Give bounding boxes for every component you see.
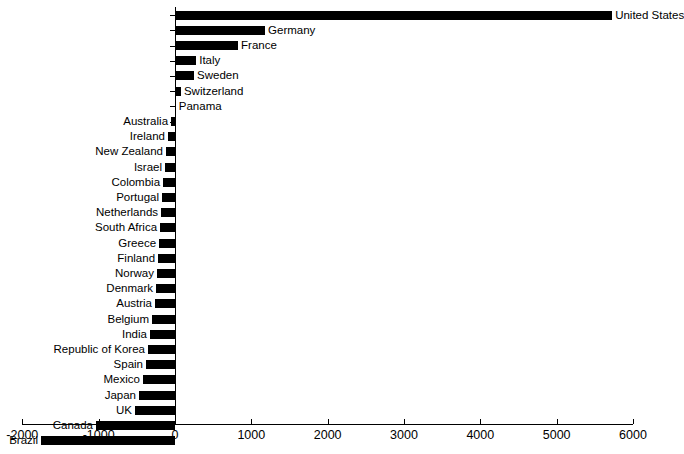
bar-row: Spain bbox=[0, 357, 644, 372]
bar-row: Mexico bbox=[0, 372, 644, 387]
bar-category-label: Netherlands bbox=[96, 205, 158, 220]
x-axis-tick-label: -2000 bbox=[6, 428, 38, 442]
x-axis-tick bbox=[480, 419, 481, 424]
x-axis-tick bbox=[22, 419, 23, 424]
bar-category-label: South Africa bbox=[95, 220, 157, 235]
x-axis-tick bbox=[633, 419, 634, 424]
bar-category-label: Colombia bbox=[111, 175, 160, 190]
bar-category-label: France bbox=[241, 38, 277, 53]
x-axis-tick-label: 4000 bbox=[466, 428, 494, 442]
x-axis-tick-label: 0 bbox=[172, 428, 179, 442]
bar-category-label: Germany bbox=[268, 23, 315, 38]
bar-row: Belgium bbox=[0, 312, 644, 327]
bar-category-label: Australia bbox=[123, 114, 168, 129]
bar-category-label: Norway bbox=[115, 266, 154, 281]
bar-category-label: Belgium bbox=[107, 312, 149, 327]
bar bbox=[135, 406, 175, 415]
bar-category-label: Sweden bbox=[197, 68, 239, 83]
bar-category-label: Switzerland bbox=[184, 84, 243, 99]
x-axis-tick bbox=[557, 419, 558, 424]
bar-row: Netherlands bbox=[0, 205, 644, 220]
bar-row: Ireland bbox=[0, 129, 644, 144]
bar-category-label: Italy bbox=[199, 53, 220, 68]
bar-category-label: United States bbox=[615, 8, 684, 23]
x-axis-tick-label: -1000 bbox=[83, 428, 115, 442]
x-axis-tick bbox=[328, 419, 329, 424]
bar-row: South Africa bbox=[0, 220, 644, 235]
bar-row: Israel bbox=[0, 160, 644, 175]
bar-category-label: Finland bbox=[117, 251, 155, 266]
bar-row: France bbox=[0, 38, 644, 53]
bar-category-label: Mexico bbox=[104, 372, 140, 387]
x-axis-tick bbox=[175, 419, 176, 424]
bar-category-label: Austria bbox=[116, 296, 152, 311]
bar-row: Sweden bbox=[0, 68, 644, 83]
bar-category-label: UK bbox=[116, 403, 132, 418]
bar-category-label: Israel bbox=[134, 160, 162, 175]
bar bbox=[175, 56, 196, 65]
bar-category-label: India bbox=[122, 327, 147, 342]
x-axis-tick bbox=[251, 419, 252, 424]
y-axis-tick bbox=[170, 426, 175, 427]
bar-row: Colombia bbox=[0, 175, 644, 190]
bar-category-label: Greece bbox=[118, 236, 156, 251]
bar-row: Finland bbox=[0, 251, 644, 266]
bar-category-label: Ireland bbox=[130, 129, 165, 144]
bar-category-label: Portugal bbox=[116, 190, 159, 205]
bar-row: New Zealand bbox=[0, 144, 644, 159]
x-axis-tick-label: 3000 bbox=[390, 428, 418, 442]
bar-category-label: Japan bbox=[105, 388, 136, 403]
bar-row: Italy bbox=[0, 53, 644, 68]
bar-row: Greece bbox=[0, 236, 644, 251]
bar-row: Panama bbox=[0, 99, 644, 114]
bar-row: India bbox=[0, 327, 644, 342]
bar-category-label: Republic of Korea bbox=[54, 342, 145, 357]
bar bbox=[175, 71, 194, 80]
bar-row: Austria bbox=[0, 296, 644, 311]
bar-category-label: Spain bbox=[114, 357, 143, 372]
bar-row: Australia bbox=[0, 114, 644, 129]
x-axis-tick-label: 6000 bbox=[619, 428, 647, 442]
bar-category-label: Panama bbox=[179, 99, 222, 114]
bar-row: United States bbox=[0, 8, 644, 23]
bar-row: Portugal bbox=[0, 190, 644, 205]
bar-category-label: New Zealand bbox=[95, 144, 163, 159]
bar-category-label: Denmark bbox=[106, 281, 153, 296]
bar-row: UK bbox=[0, 403, 644, 418]
x-axis-tick-label: 5000 bbox=[543, 428, 571, 442]
x-axis-tick-label: 2000 bbox=[314, 428, 342, 442]
bar-row: Denmark bbox=[0, 281, 644, 296]
bar-row: Republic of Korea bbox=[0, 342, 644, 357]
x-axis-tick bbox=[404, 419, 405, 424]
x-axis-line bbox=[22, 424, 633, 425]
bar bbox=[175, 41, 238, 50]
bar-row: Germany bbox=[0, 23, 644, 38]
bar-row: Norway bbox=[0, 266, 644, 281]
x-axis-tick bbox=[99, 419, 100, 424]
x-axis-tick-label: 1000 bbox=[237, 428, 265, 442]
bar bbox=[175, 11, 612, 20]
bar-row: Switzerland bbox=[0, 84, 644, 99]
bar bbox=[175, 26, 265, 35]
bar-row: Japan bbox=[0, 388, 644, 403]
y-axis-line bbox=[175, 7, 176, 424]
